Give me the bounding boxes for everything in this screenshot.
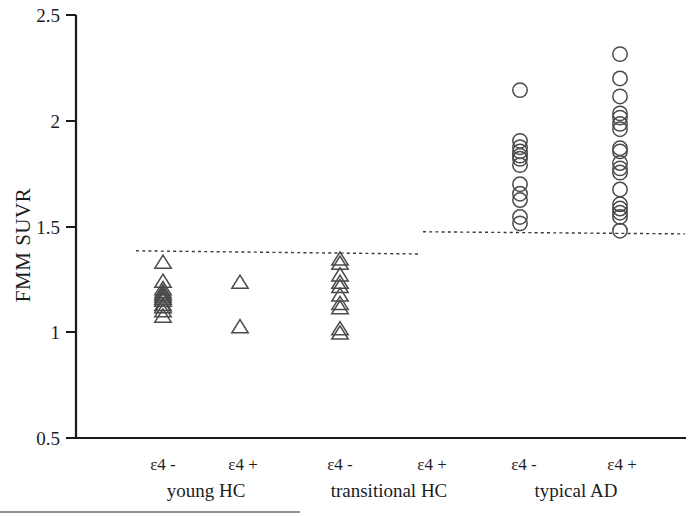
marker-group-1	[232, 275, 248, 333]
y-axis-title: FMM SUVR	[11, 188, 35, 302]
x-axis-labels: ε4 - ε4 + ε4 - ε4 + ε4 - ε4 + young HC t…	[150, 455, 637, 501]
data-point	[613, 71, 627, 85]
data-point	[232, 275, 248, 288]
y-tick-label-1.5: 1.5	[36, 217, 60, 238]
xlabel-typical-ad-e4-neg: ε4 -	[511, 455, 537, 474]
xlabel-transitional-hc-e4-pos: ε4 +	[417, 455, 446, 474]
data-point	[155, 255, 171, 268]
data-point	[613, 89, 627, 103]
y-tick-label-2.5: 2.5	[36, 5, 60, 26]
y-axis-title-text: FMM SUVR	[11, 188, 35, 302]
group-name-typical-ad: typical AD	[535, 480, 618, 501]
scatter-plot-figure: FMM SUVR 2.5 2 1.5 1 0.5 ε4 - ε4 +	[0, 0, 691, 517]
data-point	[332, 301, 348, 314]
data-point	[613, 141, 627, 155]
marker-group-5	[613, 47, 627, 238]
data-point	[332, 326, 348, 339]
xlabel-transitional-hc-e4-neg: ε4 -	[327, 455, 353, 474]
marker-group-0	[155, 255, 171, 322]
chart-canvas: FMM SUVR 2.5 2 1.5 1 0.5 ε4 - ε4 +	[0, 0, 691, 517]
reference-line-0	[136, 251, 420, 254]
group-name-young-hc: young HC	[167, 480, 246, 501]
group-name-transitional-hc: transitional HC	[331, 480, 448, 501]
data-point	[332, 252, 348, 265]
data-point	[613, 224, 627, 238]
xlabel-young-hc-e4-pos: ε4 +	[228, 455, 257, 474]
data-markers	[155, 47, 627, 339]
marker-group-2	[332, 252, 348, 339]
xlabel-typical-ad-e4-pos: ε4 +	[607, 455, 636, 474]
marker-group-4	[513, 83, 527, 231]
y-axis: 2.5 2 1.5 1 0.5	[36, 5, 76, 449]
y-tick-label-2: 2	[51, 111, 61, 132]
xlabel-young-hc-e4-neg: ε4 -	[150, 455, 176, 474]
y-tick-label-0.5: 0.5	[36, 428, 60, 449]
data-point	[513, 187, 527, 201]
data-point	[332, 322, 348, 335]
data-point	[613, 47, 627, 61]
data-point	[513, 193, 527, 207]
data-point	[513, 83, 527, 97]
reference-lines	[136, 232, 685, 254]
data-point	[513, 210, 527, 224]
data-point	[613, 182, 627, 196]
data-point	[513, 216, 527, 230]
data-point	[513, 158, 527, 172]
y-tick-label-1: 1	[51, 322, 61, 343]
reference-line-1	[423, 232, 685, 234]
data-point	[232, 320, 248, 333]
